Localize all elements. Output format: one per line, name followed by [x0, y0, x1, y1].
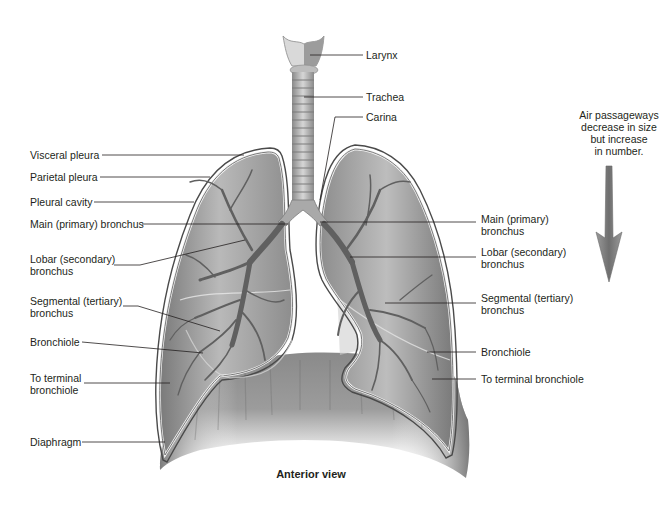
label-carina: Carina: [366, 111, 397, 123]
label-parietal-pleura: Parietal pleura: [30, 171, 98, 183]
larynx-shape: [283, 36, 324, 75]
label-lobar-bronchus-left: Lobar (secondary) bronchus: [30, 253, 115, 277]
airway-note: Air passageways decrease in size but inc…: [574, 109, 664, 157]
label-segmental-bronchus-right: Segmental (tertiary) bronchus: [481, 292, 573, 316]
label-main-bronchus-right: Main (primary) bronchus: [481, 213, 549, 237]
label-bronchiole-left: Bronchiole: [30, 336, 80, 348]
label-trachea: Trachea: [366, 91, 404, 103]
label-lobar-bronchus-right: Lobar (secondary) bronchus: [481, 246, 566, 270]
label-bronchiole-right: Bronchiole: [481, 346, 531, 358]
label-diaphragm: Diaphragm: [30, 436, 81, 448]
label-terminal-bronchiole-left: To terminal bronchiole: [30, 372, 81, 396]
label-pleural-cavity: Pleural cavity: [30, 196, 92, 208]
label-visceral-pleura: Visceral pleura: [30, 149, 99, 161]
figure-caption: Anterior view: [0, 468, 664, 480]
label-terminal-bronchiole-right: To terminal bronchiole: [481, 373, 584, 385]
label-main-bronchus-left: Main (primary) bronchus: [30, 218, 144, 230]
label-segmental-bronchus-left: Segmental (tertiary) bronchus: [30, 295, 122, 319]
label-larynx: Larynx: [366, 49, 398, 61]
lung-anatomy-diagram: Visceral pleura Parietal pleura Pleural …: [0, 0, 664, 508]
decreasing-size-arrow: [596, 166, 622, 282]
